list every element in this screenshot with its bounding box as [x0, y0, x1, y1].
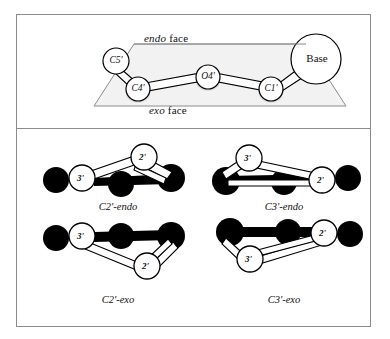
atom-label-c5prime: C5'	[102, 55, 130, 65]
conformer-c2-exo	[43, 222, 185, 279]
caption-c2-exo: C2'-exo	[38, 294, 198, 305]
sugar-pucker-figure: C5' C4' O4' C1' Base endo face exo face	[0, 0, 390, 339]
atom-label-c4prime: C4'	[124, 83, 152, 93]
conformer-atom-label-c2endo-2prime: 2'	[139, 152, 146, 162]
caption-c3-endo: C3'-endo	[204, 201, 364, 212]
sugar-ring-plane-panel: C5' C4' O4' C1' Base endo face exo face	[16, 14, 371, 128]
conformer-atom-label-c3endo-3prime: 3'	[244, 153, 251, 163]
atom-label-base: Base	[300, 52, 334, 64]
atom-label-o4prime: O4'	[194, 71, 222, 81]
conformer-c3-exo	[216, 218, 363, 272]
caption-c3-exo: C3'-exo	[204, 294, 364, 305]
exo-face-label: exo face	[149, 104, 187, 116]
conformer-atom-label-c3endo-2prime: 2'	[317, 175, 324, 185]
atom-label-c1prime: C1'	[257, 83, 285, 93]
conformer-atom-label-c2endo-3prime: 3'	[77, 173, 84, 183]
pucker-conformers-panel: 3' 2' 3' 2' 3' 2' 3' 2' C2'-endo C3'-end…	[16, 128, 371, 327]
conformer-atom-label-c3exo-3prime: 3'	[245, 254, 252, 264]
caption-c2-endo: C2'-endo	[38, 201, 198, 212]
conformer-c3-endo	[212, 145, 361, 195]
endo-face-label: endo face	[144, 32, 188, 44]
conformer-atom-label-c2exo-3prime: 3'	[77, 231, 84, 241]
conformer-atom-label-c3exo-2prime: 2'	[319, 228, 326, 238]
conformer-atom-label-c2exo-2prime: 2'	[142, 261, 149, 271]
conformer-c2-endo	[43, 144, 185, 197]
